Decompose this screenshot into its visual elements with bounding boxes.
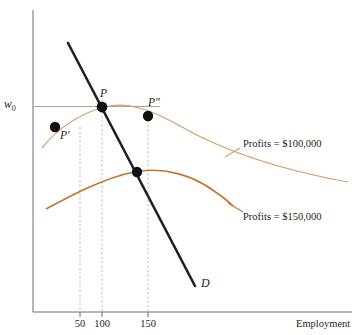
y-axis-label: w0: [4, 99, 16, 113]
demand-line: [68, 43, 195, 286]
point-lower-intersection: [132, 167, 142, 177]
point-label-P-double-prime: P″: [148, 97, 160, 109]
point-P-prime: [50, 122, 60, 132]
demand-curve-label: D: [201, 277, 210, 289]
leader-line-150k: [228, 203, 243, 212]
x-axis-title: Employment: [296, 319, 350, 330]
point-P: [97, 102, 108, 113]
x-tick-label-100: 100: [90, 319, 114, 330]
point-P-double-prime: [143, 111, 153, 121]
point-label-P-prime: P′: [60, 130, 70, 142]
x-tick-label-50: 50: [68, 319, 92, 330]
isoprofit-figure: w0 P′ P P″ D Profits = $100,000 Profits …: [0, 0, 358, 335]
curve-label-profits-100k: Profits = $100,000: [243, 139, 322, 150]
figure-canvas: [0, 0, 358, 335]
curve-label-profits-150k: Profits = $150,000: [243, 212, 322, 223]
x-tick-label-150: 150: [136, 319, 160, 330]
point-label-P: P: [100, 88, 107, 100]
